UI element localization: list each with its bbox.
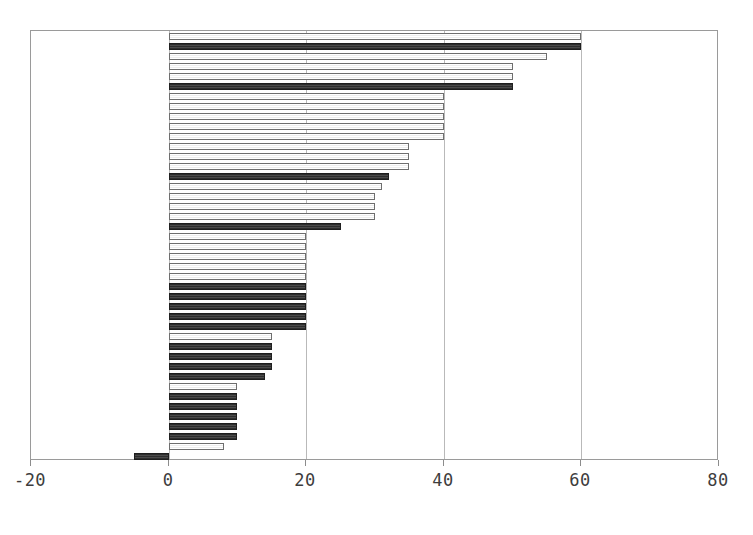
chart-root: -20020406080 [0, 0, 753, 535]
bar [169, 313, 307, 320]
bar [169, 433, 238, 440]
x-tick-label-60: 60 [569, 470, 590, 490]
bar [169, 273, 307, 280]
x-tick-mark-0 [168, 460, 169, 466]
bar [169, 173, 389, 180]
bar [169, 403, 238, 410]
bar [169, 83, 513, 90]
bar [169, 123, 444, 130]
x-tick-label-20: 20 [294, 470, 315, 490]
bar [169, 323, 307, 330]
bar [169, 343, 272, 350]
bar [169, 353, 272, 360]
bar [169, 423, 238, 430]
bar [169, 103, 444, 110]
x-tick-label-40: 40 [432, 470, 453, 490]
x-axis: -20020406080 [0, 460, 753, 500]
bar [169, 373, 265, 380]
bar [169, 263, 307, 270]
bar [169, 233, 307, 240]
bar [169, 393, 238, 400]
bar [169, 443, 224, 450]
x-tick-mark--20 [30, 460, 31, 466]
bar [169, 143, 410, 150]
x-tick-label--20: -20 [14, 470, 46, 490]
bar [169, 63, 513, 70]
x-tick-label-80: 80 [707, 470, 728, 490]
bar [169, 43, 582, 50]
bar [169, 53, 547, 60]
plot-area [30, 30, 718, 460]
bar [169, 113, 444, 120]
bar [169, 413, 238, 420]
bar [169, 153, 410, 160]
bar [169, 333, 272, 340]
bar [169, 283, 307, 290]
bar [169, 73, 513, 80]
bar [134, 453, 168, 460]
bar [169, 133, 444, 140]
bar [169, 193, 375, 200]
bar [169, 303, 307, 310]
bar [169, 223, 341, 230]
bar [169, 183, 382, 190]
bar [169, 363, 272, 370]
x-tick-label-0: 0 [163, 470, 174, 490]
bar [169, 253, 307, 260]
x-tick-mark-40 [443, 460, 444, 466]
x-tick-mark-80 [718, 460, 719, 466]
bar [169, 383, 238, 390]
bar [169, 33, 582, 40]
bar [169, 293, 307, 300]
bar [169, 203, 375, 210]
bar [169, 163, 410, 170]
bar [169, 243, 307, 250]
bar [169, 93, 444, 100]
x-tick-mark-20 [305, 460, 306, 466]
bar [169, 213, 375, 220]
bar-series [31, 31, 717, 459]
x-tick-mark-60 [580, 460, 581, 466]
